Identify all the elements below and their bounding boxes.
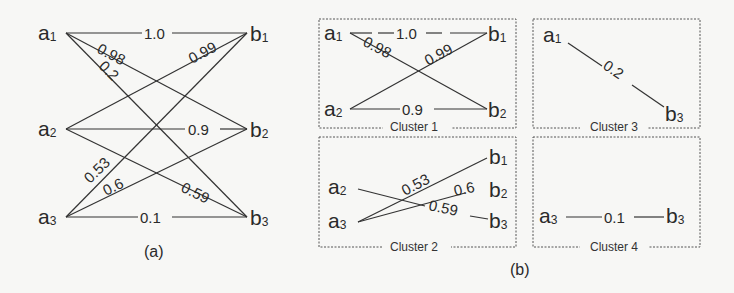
cluster-2-label: Cluster 2 <box>390 240 438 254</box>
c2-node-b3: b3 <box>489 209 508 232</box>
c2-edge-a2-b3-seg <box>470 216 488 219</box>
node-b3: b3 <box>250 206 269 229</box>
c1-weight-a1-b1: 1.0 <box>396 25 417 42</box>
caption-b: (b) <box>510 261 530 278</box>
c3-edge-a1-b3 <box>568 43 602 66</box>
weight-a2-b1: 0.99 <box>185 38 219 67</box>
cluster-1: 1.0 0.98 0.99 0.9 a1 a2 b1 b2 Cluster 1 <box>319 19 516 134</box>
cluster-2: 0.53 0.6 0.59 a2 a3 b1 b2 b3 Cluster 2 <box>319 137 516 254</box>
cluster-3: 0.2 a1 b3 Cluster 3 <box>533 19 700 134</box>
node-a3: a3 <box>38 205 57 228</box>
cluster-3-label: Cluster 3 <box>590 120 638 134</box>
c1-node-b1: b1 <box>488 22 507 45</box>
cluster-4-box <box>533 137 700 247</box>
weight-a2-b2: 0.9 <box>188 121 209 138</box>
c1-node-b2: b2 <box>488 98 507 121</box>
c4-node-b3: b3 <box>666 204 685 227</box>
c2-node-b2: b2 <box>489 178 508 201</box>
cluster-4-label: Cluster 4 <box>590 240 638 254</box>
c3-node-b3: b3 <box>665 102 684 125</box>
c3-weight-a1-b3: 0.2 <box>600 56 627 82</box>
c3-node-a1: a1 <box>543 23 562 46</box>
node-a1: a1 <box>38 21 57 44</box>
cluster-1-label: Cluster 1 <box>390 120 438 134</box>
panel-a: 1.0 0.98 0.2 0.99 0.9 0.59 0.53 0.6 0.1 … <box>38 21 269 260</box>
weight-a3-b3: 0.1 <box>140 209 161 226</box>
c2-weight-a3-b2: 0.6 <box>452 178 476 199</box>
c2-node-a2: a2 <box>328 175 347 198</box>
c1-weight-a2-b1: 0.99 <box>421 40 455 69</box>
c3-edge-a1-b3-seg <box>632 85 664 107</box>
c2-node-a3: a3 <box>328 209 347 232</box>
cluster-4: 0.1 a3 b3 Cluster 4 <box>533 137 700 254</box>
c2-weight-a2-b3: 0.59 <box>427 196 459 219</box>
c1-weight-a2-b2: 0.9 <box>402 101 423 118</box>
bipartite-clustering-figure: 1.0 0.98 0.2 0.99 0.9 0.59 0.53 0.6 0.1 … <box>0 0 734 293</box>
c4-weight-a3-b3: 0.1 <box>604 209 625 226</box>
c1-node-a1: a1 <box>324 21 343 44</box>
node-b2: b2 <box>250 118 269 141</box>
c2-node-b1: b1 <box>489 145 508 168</box>
node-a2: a2 <box>38 117 57 140</box>
c1-node-a2: a2 <box>324 97 343 120</box>
caption-a: (a) <box>144 243 164 260</box>
weight-a1-b1: 1.0 <box>144 25 165 42</box>
panel-b: 1.0 0.98 0.99 0.9 a1 a2 b1 b2 Cluster 1 … <box>319 19 700 278</box>
c4-node-a3: a3 <box>539 204 558 227</box>
c2-weight-a3-b1: 0.53 <box>398 170 432 199</box>
node-b1: b1 <box>250 22 269 45</box>
weight-a2-b3: 0.59 <box>179 178 213 206</box>
c1-weight-a1-b2: 0.98 <box>361 33 395 62</box>
